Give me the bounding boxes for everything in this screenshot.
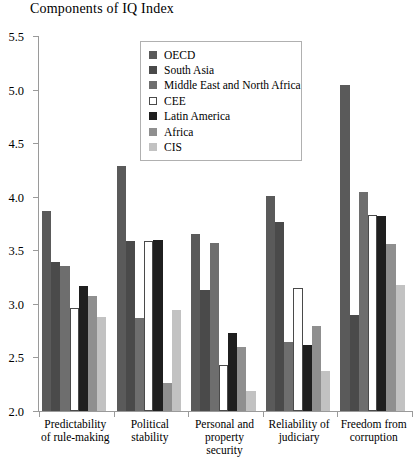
legend-swatch-icon — [149, 97, 157, 105]
bar-oecd — [266, 196, 275, 411]
bar-cis — [321, 371, 330, 411]
y-axis-tick: 3.5 — [33, 250, 39, 251]
legend-item-label: CEE — [164, 95, 186, 107]
y-axis-label: 3.0 — [8, 297, 24, 312]
bar-cee — [144, 241, 153, 411]
legend-item-cee[interactable]: CEE — [141, 93, 301, 108]
x-axis-category-line: judiciary — [262, 431, 337, 444]
legend-item-cis[interactable]: CIS — [141, 139, 301, 154]
bar-oecd — [42, 211, 51, 411]
x-axis-tick — [114, 411, 115, 417]
x-axis-category-line: Reliability of — [262, 418, 337, 431]
bar-cis — [396, 285, 405, 411]
legend-swatch-icon — [149, 66, 157, 74]
y-axis-label: 5.5 — [8, 30, 24, 45]
bar-cis — [172, 310, 181, 411]
legend-item-label: Middle East and North Africa — [164, 79, 301, 91]
chart-container: Components of IQ Index 2.02.53.03.54.04.… — [0, 0, 416, 457]
legend-item-africa[interactable]: Africa — [141, 124, 301, 139]
bar-oecd — [191, 234, 200, 411]
bar-africa — [312, 326, 321, 411]
y-axis-tick: 4.0 — [33, 197, 39, 198]
x-axis-category-line: stability — [113, 431, 188, 444]
x-axis-tick — [188, 411, 189, 417]
x-axis-category-line: of rule-making — [38, 431, 113, 444]
x-axis-tick — [39, 411, 40, 417]
x-axis-category-label: Personal andproperty security — [187, 418, 262, 457]
page-title: Components of IQ Index — [30, 1, 174, 17]
x-axis-category-label: Politicalstability — [113, 418, 188, 444]
bar-cis — [246, 391, 255, 411]
y-axis-tick: 5.5 — [33, 36, 39, 37]
bar-latin-america — [153, 240, 162, 411]
y-axis-label: 2.5 — [8, 351, 24, 366]
bar-middle-east-and-north-africa — [60, 266, 69, 411]
legend-item-label: South Asia — [164, 64, 214, 76]
bar-latin-america — [377, 216, 386, 411]
x-axis-category-label: Reliability ofjudiciary — [262, 418, 337, 444]
y-axis-label: 4.0 — [8, 190, 24, 205]
x-axis-category-line: Freedom from — [336, 418, 411, 431]
bar-group — [42, 36, 106, 411]
legend-item-label: Africa — [164, 126, 193, 138]
bar-south-asia — [275, 222, 284, 411]
bar-latin-america — [303, 345, 312, 411]
y-axis-tick: 5.0 — [33, 90, 39, 91]
bar-south-asia — [126, 241, 135, 411]
legend-swatch-icon — [149, 143, 157, 151]
y-axis-label: 5.0 — [8, 83, 24, 98]
x-axis-tick — [263, 411, 264, 417]
legend-item-label: CIS — [164, 141, 182, 153]
bar-latin-america — [228, 333, 237, 411]
bar-middle-east-and-north-africa — [210, 243, 219, 411]
bar-africa — [237, 347, 246, 411]
x-axis-category-line: corruption — [336, 431, 411, 444]
legend-item-oecd[interactable]: OECD — [141, 47, 301, 62]
legend-swatch-icon — [149, 112, 157, 120]
y-axis-label: 4.5 — [8, 137, 24, 152]
y-axis-label: 3.5 — [8, 244, 24, 259]
bar-cee — [293, 288, 302, 411]
bar-oecd — [340, 85, 349, 411]
bar-cee — [368, 215, 377, 411]
bar-cee — [219, 365, 228, 411]
x-axis-category-label: Predictabilityof rule-making — [38, 418, 113, 444]
bar-group — [340, 36, 404, 411]
bar-south-asia — [51, 262, 60, 411]
bar-middle-east-and-north-africa — [359, 192, 368, 411]
x-axis-category-line: Personal and — [187, 418, 262, 431]
y-axis-tick: 3.0 — [33, 304, 39, 305]
y-axis-tick: 2.5 — [33, 357, 39, 358]
legend-item-label: OECD — [164, 49, 195, 61]
legend-item-label: Latin America — [164, 110, 230, 122]
legend-swatch-icon — [149, 51, 157, 59]
x-axis-category-line: property security — [187, 431, 262, 457]
chart-legend: OECDSouth AsiaMiddle East and North Afri… — [140, 41, 302, 161]
legend-swatch-icon — [149, 81, 157, 89]
bar-south-asia — [350, 315, 359, 411]
x-axis-category-line: Political — [113, 418, 188, 431]
bar-latin-america — [79, 286, 88, 411]
legend-item-middle-east-and-north-africa[interactable]: Middle East and North Africa — [141, 78, 301, 93]
x-axis-category-line: Predictability — [38, 418, 113, 431]
x-axis-category-label: Freedom fromcorruption — [336, 418, 411, 444]
legend-item-south-asia[interactable]: South Asia — [141, 62, 301, 77]
bar-oecd — [117, 166, 126, 411]
y-axis-tick: 4.5 — [33, 143, 39, 144]
bar-africa — [386, 244, 395, 411]
bar-cis — [97, 317, 106, 411]
x-axis-tick — [412, 411, 413, 417]
bar-middle-east-and-north-africa — [135, 318, 144, 411]
x-axis-tick — [337, 411, 338, 417]
bar-africa — [88, 296, 97, 411]
bar-south-asia — [200, 290, 209, 411]
legend-item-latin-america[interactable]: Latin America — [141, 109, 301, 124]
legend-swatch-icon — [149, 128, 157, 136]
bar-cee — [70, 308, 79, 411]
bar-africa — [163, 383, 172, 411]
y-axis-label: 2.0 — [8, 405, 24, 420]
bar-middle-east-and-north-africa — [284, 342, 293, 411]
